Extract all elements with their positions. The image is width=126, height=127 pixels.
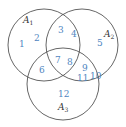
set-a2-label: A2: [103, 29, 115, 40]
set-a1-label: A1: [22, 15, 33, 26]
region-7: 7: [55, 55, 61, 65]
region-11: 11: [77, 73, 88, 83]
region-4: 4: [71, 29, 77, 39]
region-12: 12: [58, 89, 69, 99]
venn-diagram: A1 A2 A3 1 2 3 4 5 6 7 8 9 11 10 12: [0, 0, 126, 127]
set-a3-label: A3: [57, 102, 69, 113]
region-8: 8: [67, 57, 73, 67]
region-6: 6: [39, 65, 45, 75]
region-1: 1: [19, 39, 25, 49]
region-9: 9: [82, 63, 88, 73]
region-3: 3: [58, 25, 64, 35]
region-5: 5: [97, 38, 103, 48]
region-2: 2: [34, 33, 40, 43]
region-10: 10: [90, 71, 102, 81]
